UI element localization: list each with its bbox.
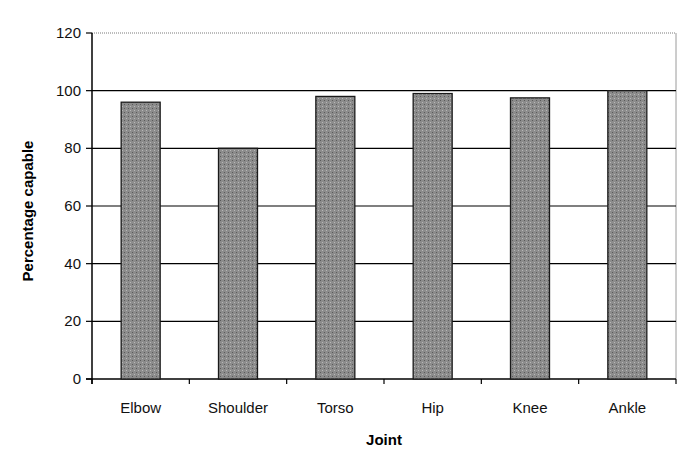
y-axis-title: Percentage capable [19, 141, 36, 282]
x-axis-title: Joint [366, 431, 402, 448]
x-tick-label: Ankle [609, 399, 647, 416]
y-tick-label: 60 [64, 197, 81, 214]
x-axis: ElbowShoulderTorsoHipKneeAnkle [86, 379, 676, 416]
bars [121, 91, 647, 379]
y-tick-label: 20 [64, 312, 81, 329]
bar-torso [316, 96, 355, 379]
bar-elbow [121, 102, 160, 379]
x-tick-label: Elbow [120, 399, 161, 416]
bar-knee [511, 98, 550, 379]
y-tick-label: 0 [73, 370, 81, 387]
bar-chart: 020406080100120 ElbowShoulderTorsoHipKne… [0, 0, 689, 460]
plot-area [92, 33, 676, 379]
bar-shoulder [219, 148, 258, 379]
y-axis: 020406080100120 [56, 24, 92, 387]
y-tick-label: 80 [64, 139, 81, 156]
y-tick-label: 120 [56, 24, 81, 41]
y-tick-label: 40 [64, 255, 81, 272]
x-tick-label: Shoulder [208, 399, 268, 416]
x-tick-label: Hip [421, 399, 444, 416]
x-tick-label: Knee [512, 399, 547, 416]
y-tick-label: 100 [56, 82, 81, 99]
bar-hip [413, 94, 452, 379]
x-tick-label: Torso [317, 399, 354, 416]
bar-ankle [608, 91, 647, 379]
